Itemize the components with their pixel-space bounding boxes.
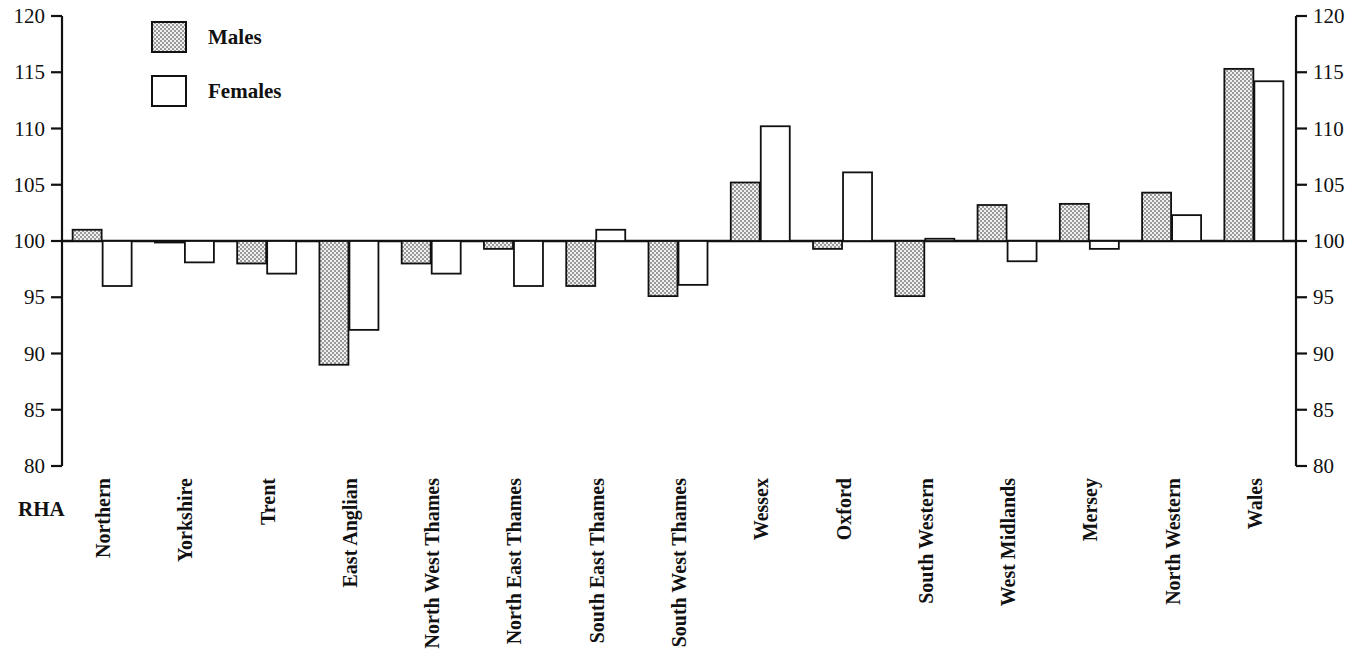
x-category-label: South East Thames xyxy=(586,478,608,643)
y-tick-label-right: 85 xyxy=(1313,398,1334,422)
bar-female[interactable] xyxy=(925,239,954,241)
bar-female[interactable] xyxy=(103,241,132,286)
x-category-label: Mersey xyxy=(1079,478,1102,541)
x-category-label: Wessex xyxy=(750,478,772,540)
bar-male[interactable] xyxy=(1060,204,1089,241)
y-tick-label-right: 80 xyxy=(1313,454,1334,478)
bar-male[interactable] xyxy=(73,230,102,241)
y-tick-label-right: 120 xyxy=(1313,4,1345,28)
x-category-label: South Western xyxy=(915,478,937,604)
bar-male[interactable] xyxy=(649,241,678,296)
y-tick-label-right: 90 xyxy=(1313,342,1334,366)
bar-female[interactable] xyxy=(185,241,214,262)
legend-label-males: Males xyxy=(208,25,262,49)
y-tick-label-right: 105 xyxy=(1313,173,1345,197)
x-category-label: Trent xyxy=(257,478,279,525)
x-category-label: West Midlands xyxy=(997,478,1019,607)
bar-female[interactable] xyxy=(843,172,872,241)
bar-male[interactable] xyxy=(813,241,842,249)
y-tick-label-left: 85 xyxy=(24,398,45,422)
bar-male[interactable] xyxy=(155,241,184,243)
y-tick-label-left: 100 xyxy=(14,229,46,253)
y-tick-label-left: 110 xyxy=(14,117,45,141)
bar-female[interactable] xyxy=(1254,81,1283,241)
bar-female[interactable] xyxy=(1172,215,1201,241)
x-category-label: East Anglian xyxy=(339,478,362,587)
bar-male[interactable] xyxy=(978,205,1007,241)
bar-male[interactable] xyxy=(895,241,924,296)
x-category-label: Northern xyxy=(92,478,114,558)
x-category-label: North West Thames xyxy=(421,478,443,649)
y-tick-label-right: 115 xyxy=(1313,60,1344,84)
y-tick-label-right: 100 xyxy=(1313,229,1345,253)
grouped-bar-chart: 8080858590909595100100105105110110115115… xyxy=(0,0,1351,649)
bar-male[interactable] xyxy=(1224,69,1253,241)
bar-male[interactable] xyxy=(731,183,760,242)
legend-label-females: Females xyxy=(208,79,281,103)
bar-female[interactable] xyxy=(432,241,461,274)
x-category-label: South West Thames xyxy=(668,478,690,648)
y-tick-label-left: 90 xyxy=(24,342,45,366)
x-category-label: North Western xyxy=(1162,478,1184,605)
y-tick-label-left: 120 xyxy=(14,4,46,28)
x-category-label: Wales xyxy=(1244,478,1266,529)
y-tick-label-left: 80 xyxy=(24,454,45,478)
x-axis-title: RHA xyxy=(18,497,66,521)
y-tick-label-left: 115 xyxy=(14,60,45,84)
y-tick-label-right: 95 xyxy=(1313,285,1334,309)
y-tick-label-right: 110 xyxy=(1313,117,1344,141)
bar-male[interactable] xyxy=(402,241,431,264)
legend-swatch-females xyxy=(152,76,186,106)
bar-female[interactable] xyxy=(761,126,790,241)
bar-male[interactable] xyxy=(1142,193,1171,241)
bar-male[interactable] xyxy=(319,241,348,365)
chart-container: 8080858590909595100100105105110110115115… xyxy=(0,0,1351,649)
y-tick-label-left: 105 xyxy=(14,173,46,197)
bar-female[interactable] xyxy=(1090,241,1119,249)
bar-male[interactable] xyxy=(237,241,266,264)
bar-female[interactable] xyxy=(1008,241,1037,261)
bar-female[interactable] xyxy=(514,241,543,286)
x-category-label: Oxford xyxy=(833,478,855,540)
bar-female[interactable] xyxy=(349,241,378,330)
x-category-label: North East Thames xyxy=(503,478,525,645)
legend-swatch-males xyxy=(152,22,186,52)
bar-female[interactable] xyxy=(679,241,708,285)
x-category-label: Yorkshire xyxy=(174,478,196,562)
bar-male[interactable] xyxy=(484,241,513,249)
y-tick-label-left: 95 xyxy=(24,285,45,309)
bar-female[interactable] xyxy=(267,241,296,274)
bar-female[interactable] xyxy=(596,230,625,241)
bar-male[interactable] xyxy=(566,241,595,286)
